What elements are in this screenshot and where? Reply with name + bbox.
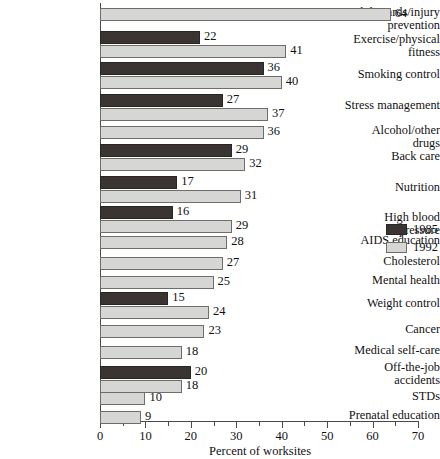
x-minor-tick-25 [214, 422, 215, 426]
bar-1985 [100, 206, 173, 219]
category-label: Back care [344, 150, 440, 163]
category-label: Smoking control [344, 68, 440, 81]
bar-value-label: 25 [218, 275, 231, 288]
bar-1992 [100, 220, 232, 233]
legend-item-1992: 1992 [386, 240, 438, 255]
bar-value-label: 64 [395, 7, 408, 20]
bar-value-label: 10 [149, 391, 162, 404]
bar-value-label: 27 [227, 256, 240, 269]
bar-value-label: 36 [268, 125, 281, 138]
x-tick-30 [236, 422, 237, 428]
x-tick-label-70: 70 [398, 429, 438, 443]
bar-1985 [100, 62, 264, 75]
x-tick-40 [282, 422, 283, 428]
bar-value-label: 16 [177, 205, 190, 218]
x-tick-70 [418, 422, 419, 428]
category-label: Stress management [344, 99, 440, 112]
legend-swatch-1992-icon [386, 242, 407, 253]
category-label: Off-the-job accidents [344, 361, 440, 387]
x-tick-label-30: 30 [216, 429, 256, 443]
bar-1985 [100, 292, 168, 305]
bar-value-label: 17 [181, 175, 194, 188]
category-label: STDs [344, 390, 440, 403]
bar-1992 [100, 108, 268, 121]
bar-value-label: 28 [231, 235, 244, 248]
x-minor-tick-65 [395, 422, 396, 426]
x-minor-tick-45 [304, 422, 305, 426]
x-tick-label-50: 50 [307, 429, 347, 443]
legend-label-1985: 1985 [413, 223, 438, 236]
category-label: Exercise/physical fitness [344, 33, 440, 59]
legend-item-1985: 1985 [386, 222, 438, 237]
category-label: Nutrition [344, 181, 440, 194]
bar-value-label: 23 [208, 324, 221, 337]
category-label: Mental health [344, 274, 440, 287]
bar-value-label: 29 [236, 219, 249, 232]
category-label: Prenatal education [344, 409, 440, 422]
x-axis-title: Percent of worksites [100, 444, 420, 458]
bar-value-label: 18 [186, 345, 199, 358]
bar-1992 [100, 346, 182, 359]
bar-1985 [100, 94, 223, 107]
category-label: Medical self-care [344, 344, 440, 357]
bar-value-label: 37 [272, 107, 285, 120]
category-label: Weight control [344, 297, 440, 310]
x-tick-label-20: 20 [171, 429, 211, 443]
legend-label-1992: 1992 [413, 241, 438, 254]
bar-1992 [100, 158, 245, 171]
bar-value-label: 32 [249, 157, 262, 170]
bar-1992 [100, 392, 145, 405]
bar-1992 [100, 325, 204, 338]
bar-value-label: 22 [204, 30, 217, 43]
horizontal-bar-chart: 010203040506070 Percent of worksites Job… [0, 0, 440, 459]
category-label: Alcohol/other drugs [344, 124, 440, 150]
bar-value-label: 29 [236, 143, 249, 156]
bar-value-label: 31 [245, 189, 258, 202]
bar-value-label: 18 [186, 379, 199, 392]
bar-1992 [100, 126, 264, 139]
legend-swatch-1985-icon [386, 224, 407, 235]
bar-value-label: 36 [268, 61, 281, 74]
bar-value-label: 20 [195, 365, 208, 378]
bar-value-label: 15 [172, 291, 185, 304]
bar-1985 [100, 176, 177, 189]
x-minor-tick-55 [350, 422, 351, 426]
bar-value-label: 41 [290, 44, 303, 57]
bar-1992 [100, 76, 282, 89]
bar-value-label: 27 [227, 93, 240, 106]
x-tick-label-60: 60 [353, 429, 393, 443]
x-tick-label-40: 40 [262, 429, 302, 443]
chart-legend: 1985 1992 [386, 222, 438, 258]
category-label: Cancer [344, 323, 440, 336]
bar-1985 [100, 31, 200, 44]
bar-value-label: 9 [145, 410, 151, 423]
x-tick-label-10: 10 [125, 429, 165, 443]
bar-1992 [100, 8, 391, 21]
bar-1992 [100, 411, 141, 424]
bar-1992 [100, 190, 241, 203]
x-minor-tick-35 [259, 422, 260, 426]
bar-1992 [100, 306, 209, 319]
x-tick-20 [191, 422, 192, 428]
bar-1992 [100, 236, 227, 249]
bar-1992 [100, 276, 214, 289]
bar-1985 [100, 144, 232, 157]
x-minor-tick-15 [168, 422, 169, 426]
bar-value-label: 40 [286, 75, 299, 88]
bar-1985 [100, 366, 191, 379]
x-tick-label-0: 0 [80, 429, 120, 443]
bar-value-label: 24 [213, 305, 226, 318]
bar-1992 [100, 45, 286, 58]
x-tick-60 [373, 422, 374, 428]
x-tick-50 [327, 422, 328, 428]
bar-1992 [100, 257, 223, 270]
